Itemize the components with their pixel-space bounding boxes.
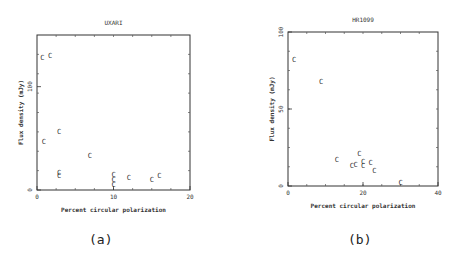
x-tick-label: 0	[286, 189, 290, 196]
scatter-plot-a: UXARI010200100Percent circular polarizat…	[0, 0, 230, 230]
data-point: C	[157, 172, 161, 180]
x-axis-label: Percent circular polarization	[61, 206, 166, 214]
x-axis-label: Percent circular polarization	[311, 202, 416, 210]
data-point: C	[335, 156, 339, 164]
y-axis-label: Flux density (mJy)	[17, 80, 25, 145]
x-tick-label: 40	[434, 189, 442, 196]
panel-label-a: (a)	[89, 232, 112, 247]
x-tick-label: 10	[110, 193, 118, 200]
data-point: C	[292, 56, 296, 64]
y-tick-label: 50	[277, 105, 284, 113]
y-tick-label: 0	[277, 184, 284, 188]
data-point: C	[48, 52, 52, 60]
data-point: C	[88, 152, 92, 160]
data-point: C	[40, 54, 44, 62]
data-point: C	[127, 174, 131, 182]
y-tick-label: 100	[277, 26, 284, 37]
chart-panel-b: HR109902040050100Percent circular polari…	[230, 0, 457, 263]
plot-frame	[37, 35, 190, 190]
data-point: C	[353, 161, 357, 169]
data-point: C	[372, 167, 376, 175]
x-tick-label: 20	[186, 193, 194, 200]
data-point: C	[57, 172, 61, 180]
data-point: C	[319, 78, 323, 86]
data-point: C	[111, 181, 115, 189]
data-point: C	[361, 162, 365, 170]
data-point: C	[42, 138, 46, 146]
x-tick-label: 0	[35, 193, 39, 200]
scatter-plot-b: HR109902040050100Percent circular polari…	[230, 0, 457, 230]
panel-label-b: (b)	[348, 232, 371, 247]
data-point: C	[57, 128, 61, 136]
chart-title: UXARI	[104, 19, 122, 26]
x-tick-label: 20	[359, 189, 367, 196]
y-tick-label: 100	[26, 81, 33, 92]
data-point: C	[398, 179, 402, 187]
y-axis-label: Flux density (mJy)	[268, 76, 276, 141]
data-point: C	[150, 176, 154, 184]
chart-title: HR1099	[352, 16, 374, 23]
chart-panel-a: UXARI010200100Percent circular polarizat…	[0, 0, 230, 263]
y-tick-label: 0	[26, 188, 33, 192]
